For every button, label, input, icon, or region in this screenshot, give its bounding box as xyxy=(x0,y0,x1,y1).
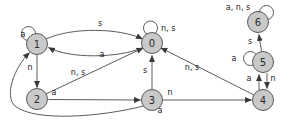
state-label-2: 2 xyxy=(34,94,40,105)
edge-label-3-1: a xyxy=(158,106,163,115)
edge-2-to-3 xyxy=(49,100,141,101)
edge-label-6-loop: a, n, s xyxy=(226,3,250,12)
state-node-5: 5 xyxy=(253,52,274,73)
edge-1-to-0 xyxy=(46,30,143,39)
edge-2-to-0 xyxy=(46,48,143,94)
state-node-4: 4 xyxy=(253,90,274,111)
edge-0-to-1 xyxy=(49,48,143,56)
state-node-2: 2 xyxy=(27,89,48,110)
edge-label-5-loop: a xyxy=(232,54,237,63)
state-label-5: 5 xyxy=(260,57,266,68)
edge-label-3-4: n xyxy=(167,88,172,97)
state-label-1: 1 xyxy=(34,39,40,50)
edge-label-1-2: n xyxy=(27,63,32,72)
state-label-6: 6 xyxy=(255,17,261,28)
edge-label-0-loop: n, s xyxy=(161,24,175,33)
diagram-canvas: 0 1 2 3 4 5 6 n, s a a s n n, s a s a n … xyxy=(0,0,289,124)
edge-label-0-1: a xyxy=(100,50,105,59)
state-label-4: 4 xyxy=(260,95,266,106)
edge-label-5-4: n xyxy=(270,74,275,83)
state-label-3: 3 xyxy=(149,95,155,106)
state-label-0: 0 xyxy=(149,38,155,49)
edge-label-2-3: a xyxy=(52,88,57,97)
automaton-diagram: 0 1 2 3 4 5 6 n, s a a s n n, s a s a n … xyxy=(0,0,289,124)
state-node-0: 0 xyxy=(142,33,163,54)
state-node-1: 1 xyxy=(27,34,48,55)
edge-5-to-6 xyxy=(259,35,262,52)
edge-label-4-0: n, s xyxy=(185,63,199,72)
edge-label-1-loop: a xyxy=(21,30,26,39)
edge-label-2-0: n, s xyxy=(71,68,85,77)
state-node-6: 6 xyxy=(248,12,269,33)
edge-label-4-5: a xyxy=(247,74,252,83)
edge-label-1-0: s xyxy=(98,19,102,28)
edge-label-5-6: s xyxy=(248,37,252,46)
edge-4-to-0 xyxy=(161,48,254,95)
edge-label-3-0: s xyxy=(143,66,147,75)
